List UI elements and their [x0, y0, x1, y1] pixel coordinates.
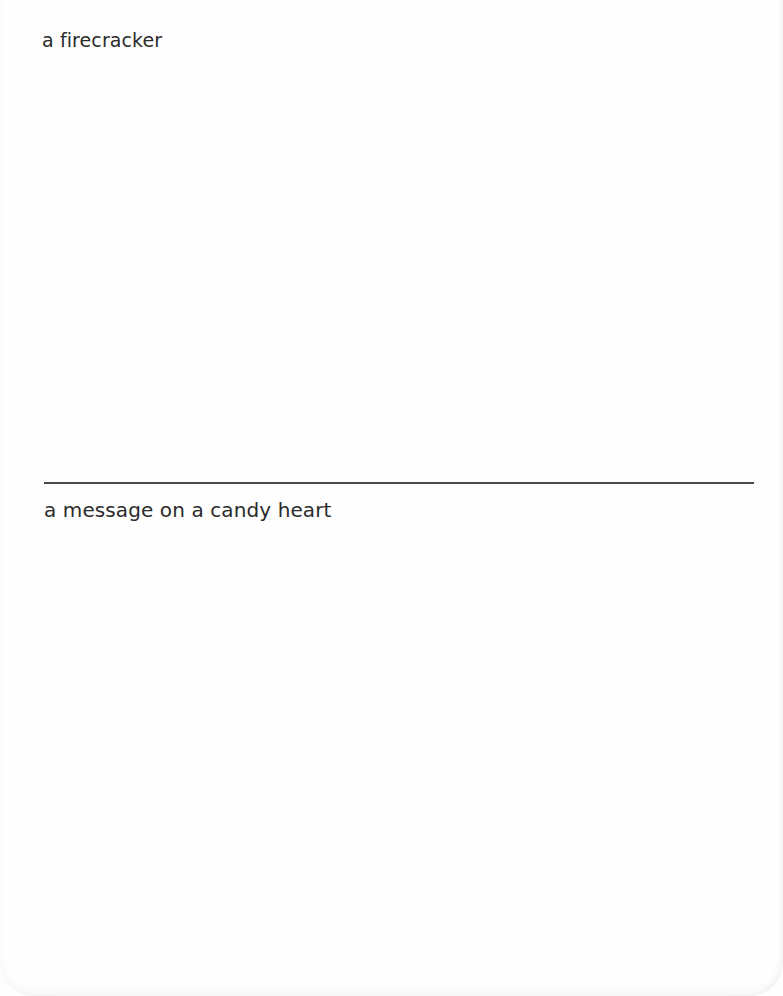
bottom-prompt-label: a message on a candy heart — [44, 500, 331, 520]
section-divider — [44, 482, 754, 484]
drawing-card: a firecracker a message on a candy heart — [0, 0, 783, 996]
top-prompt-label: a firecracker — [42, 31, 162, 50]
bottom-drawing-area — [44, 530, 754, 960]
top-drawing-area — [42, 60, 754, 475]
